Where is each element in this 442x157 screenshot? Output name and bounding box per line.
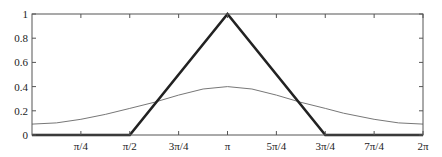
x-axis: π/4π/23π/4π5π/43π/47π/42π: [74, 14, 429, 152]
y-tick-label: 0.4: [14, 81, 28, 93]
plot-area: [32, 14, 423, 135]
gaussian-line: [32, 87, 423, 125]
x-tick-label: π: [225, 140, 231, 152]
y-tick-label: 0.6: [14, 56, 28, 68]
x-tick-label: π/2: [123, 140, 137, 152]
y-tick-label: 0: [23, 129, 29, 141]
x-tick-label: 3π/4: [169, 140, 189, 152]
y-axis: 00.20.40.60.81: [14, 8, 423, 141]
x-tick-label: 5π/4: [267, 140, 287, 152]
chart: 00.20.40.60.81 π/4π/23π/4π5π/43π/47π/42π: [0, 0, 442, 157]
y-tick-label: 0.8: [14, 32, 28, 44]
x-tick-label: 7π/4: [364, 140, 384, 152]
x-tick-label: π/4: [74, 140, 89, 152]
x-tick-label: 2π: [417, 140, 429, 152]
y-tick-label: 0.2: [14, 105, 28, 117]
y-tick-label: 1: [23, 8, 29, 20]
x-tick-label: 3π/4: [315, 140, 335, 152]
